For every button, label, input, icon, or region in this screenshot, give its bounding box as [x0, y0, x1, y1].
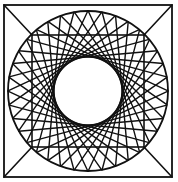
inner-square [32, 35, 144, 147]
string-art-figure [0, 0, 178, 182]
